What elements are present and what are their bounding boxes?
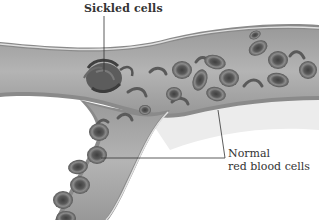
normal-cells-label: Normal red blood cells [228, 147, 310, 173]
normal-cells-label-line2: red blood cells [228, 160, 310, 173]
sickled-cells-label: Sickled cells [84, 2, 163, 15]
blood-vessel-illustration [0, 0, 319, 220]
diagram-canvas: Sickled cells Normal red blood cells [0, 0, 319, 220]
normal-cells-label-line1: Normal [228, 147, 310, 160]
